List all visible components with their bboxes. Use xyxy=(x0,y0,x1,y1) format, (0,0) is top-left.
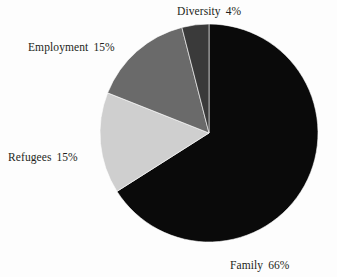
pie-label-refugees-percent: 15% xyxy=(57,151,78,163)
pie-label-employment: Employment15% xyxy=(28,41,115,54)
pie-slices-group xyxy=(100,24,318,242)
pie-label-employment-name: Employment xyxy=(28,41,88,53)
pie-label-diversity: Diversity4% xyxy=(177,5,241,18)
pie-label-family-name: Family xyxy=(230,259,263,271)
pie-label-refugees-name: Refugees xyxy=(8,151,52,163)
pie-label-employment-percent: 15% xyxy=(93,41,114,53)
pie-label-diversity-name: Diversity xyxy=(177,5,221,17)
pie-label-diversity-percent: 4% xyxy=(226,5,241,17)
pie-label-refugees: Refugees15% xyxy=(8,151,78,164)
pie-chart-figure: Diversity4% Employment15% Refugees15% Fa… xyxy=(0,0,337,277)
pie-label-family: Family66% xyxy=(230,259,289,272)
pie-label-family-percent: 66% xyxy=(268,259,289,271)
